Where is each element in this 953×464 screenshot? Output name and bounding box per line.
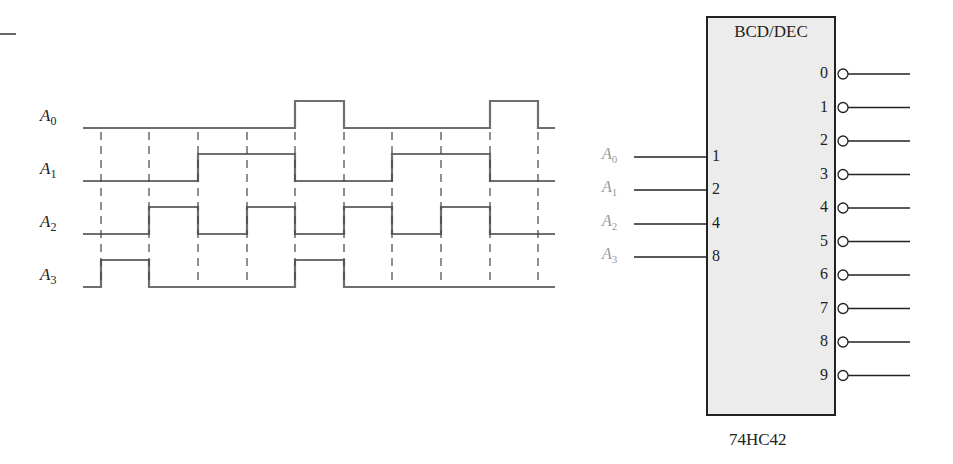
waveform-label: A1: [40, 159, 56, 182]
output-pin-label: 3: [810, 165, 828, 183]
input-pin-weight: 1: [712, 147, 720, 165]
waveform-A1: [83, 154, 555, 181]
output-pin-label: 1: [810, 98, 828, 116]
output-pin-label: 5: [810, 232, 828, 250]
inversion-bubble: [838, 69, 848, 79]
waveform-label: A3: [40, 265, 56, 288]
inversion-bubble: [838, 371, 848, 381]
input-pin-weight: 2: [712, 180, 720, 198]
inversion-bubble: [838, 170, 848, 180]
output-pin-label: 0: [810, 64, 828, 82]
input-pin-weight: 4: [712, 214, 720, 232]
waveform-A0: [83, 101, 555, 128]
waveform-A3: [83, 260, 555, 287]
input-label: A2: [602, 212, 617, 232]
input-pin-weight: 8: [712, 247, 720, 265]
waveform-label: A2: [40, 212, 56, 235]
inversion-bubble: [838, 136, 848, 146]
inversion-bubble: [838, 203, 848, 213]
decoder-title: BCD/DEC: [708, 22, 834, 42]
output-pin-label: 2: [810, 131, 828, 149]
inversion-bubble: [838, 304, 848, 314]
output-pin-label: 9: [810, 366, 828, 384]
output-pin-label: 7: [810, 299, 828, 317]
waveform-label: A0: [40, 106, 56, 129]
input-label: A0: [602, 145, 617, 165]
output-pin-label: 4: [810, 198, 828, 216]
inversion-bubble: [838, 270, 848, 280]
input-label: A1: [602, 178, 617, 198]
inversion-bubble: [838, 337, 848, 347]
inversion-bubble: [838, 237, 848, 247]
output-pin-label: 6: [810, 265, 828, 283]
waveform-A2: [83, 207, 555, 234]
part-number: 74HC42: [729, 430, 787, 450]
input-label: A3: [602, 245, 617, 265]
inversion-bubble: [838, 103, 848, 113]
output-pin-label: 8: [810, 332, 828, 350]
